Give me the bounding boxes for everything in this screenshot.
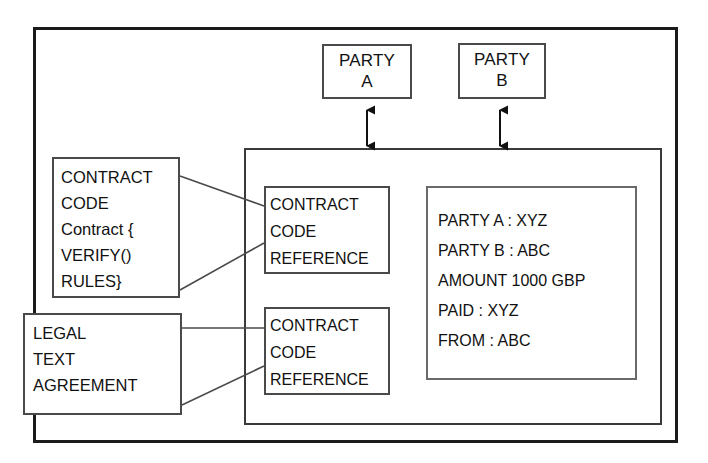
- legal-text-line-3: AGREEMENT: [33, 372, 180, 398]
- ref-2-line-3: REFERENCE: [270, 366, 388, 393]
- ref-2-line-1: CONTRACT: [270, 312, 388, 339]
- ref-2-line-2: CODE: [270, 339, 388, 366]
- legal-text-line-1: LEGAL: [33, 320, 180, 346]
- ref-1-line-1: CONTRACT: [270, 191, 388, 218]
- contract-state-panel[interactable]: PARTY A : XYZ PARTY B : ABC AMOUNT 1000 …: [426, 186, 637, 380]
- party-b-label-line-1: PARTY: [474, 50, 530, 71]
- party-b-label-line-2: B: [496, 71, 508, 92]
- state-line-from: FROM : ABC: [438, 326, 635, 356]
- party-a-label-line-1: PARTY: [339, 51, 395, 72]
- state-line-amount: AMOUNT 1000 GBP: [438, 266, 635, 296]
- state-line-party-b: PARTY B : ABC: [438, 236, 635, 266]
- ref-1-line-3: REFERENCE: [270, 245, 388, 272]
- party-a-label-line-2: A: [361, 72, 373, 93]
- legal-text-line-2: TEXT: [33, 346, 180, 372]
- ref-1-line-2: CODE: [270, 218, 388, 245]
- diagram-canvas: PARTY A PARTY B CONTRACT CODE Contract {…: [0, 0, 708, 463]
- party-b-box[interactable]: PARTY B: [458, 43, 546, 99]
- contract-code-reference-box-2[interactable]: CONTRACT CODE REFERENCE: [264, 307, 390, 395]
- contract-code-box[interactable]: CONTRACT CODE Contract { VERIFY() RULES}: [52, 157, 180, 298]
- party-a-box[interactable]: PARTY A: [322, 44, 412, 99]
- contract-code-line-4: VERIFY(): [61, 242, 178, 268]
- contract-code-reference-box-1[interactable]: CONTRACT CODE REFERENCE: [264, 186, 390, 274]
- contract-code-line-3: Contract {: [61, 216, 178, 242]
- contract-code-line-1: CONTRACT: [61, 164, 178, 190]
- state-line-party-a: PARTY A : XYZ: [438, 206, 635, 236]
- legal-text-box[interactable]: LEGAL TEXT AGREEMENT: [23, 313, 182, 415]
- state-line-paid: PAID : XYZ: [438, 296, 635, 326]
- contract-code-line-2: CODE: [61, 190, 178, 216]
- contract-code-line-5: RULES}: [61, 268, 178, 294]
